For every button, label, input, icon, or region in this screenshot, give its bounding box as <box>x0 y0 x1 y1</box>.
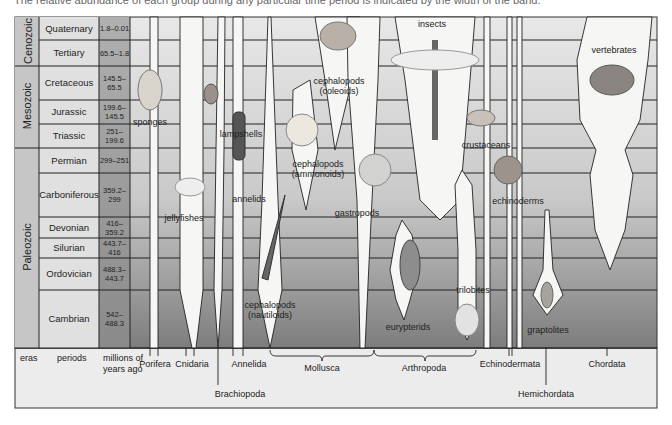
jellyfish-illustration <box>175 178 205 196</box>
axis-label-mya: millions of years ago <box>103 353 143 375</box>
group-label-cephalopods: cephalopods (coleoids) <box>313 76 364 96</box>
phylum-label-porifera: Porifera <box>139 359 171 369</box>
mya-label-carboniferous: 359.2– 299 <box>99 186 130 204</box>
group-label-insects: insects <box>418 19 446 29</box>
period-label-permian: Permian <box>39 155 99 166</box>
mya-label-ordovician: 488.3– 443.7 <box>99 265 130 283</box>
period-label-jurassic: Jurassic <box>39 106 99 117</box>
phylum-label-chordata: Chordata <box>588 359 625 369</box>
phylum-label-echinodermata: Echinodermata <box>480 359 541 369</box>
axis-label-eras: eras <box>20 353 38 364</box>
group-label-graptolites: graptolites <box>527 325 569 335</box>
lampshell-illustration <box>204 84 218 104</box>
sponge-illustration <box>138 70 162 110</box>
shrimp-illustration <box>467 110 495 126</box>
period-label-triassic: Triassic <box>39 130 99 141</box>
phylum-label-arthropoda: Arthropoda <box>402 363 447 373</box>
phylum-label-cnidaria: Cnidaria <box>175 359 209 369</box>
graptolite-illustration <box>541 282 553 308</box>
period-column <box>39 17 99 348</box>
group-label-echinoderms: echinoderms <box>492 196 544 206</box>
eurypterid-illustration <box>400 240 420 290</box>
group-label-sponges: sponges <box>133 117 167 127</box>
group-label-annelids: annelids <box>232 194 266 204</box>
phylum-label-hemichordata: Hemichordata <box>518 389 574 399</box>
era-label-mesozoic: Mesozoic <box>21 65 33 147</box>
turtle-illustration <box>590 65 634 95</box>
period-label-cambrian: Cambrian <box>39 313 99 324</box>
era-label-paleozoic: Paleozoic <box>21 147 33 347</box>
period-label-carboniferous: Carboniferous <box>39 189 99 200</box>
mya-label-permian: 299–251 <box>99 156 130 165</box>
mya-label-devonian: 416– 359.2 <box>99 219 130 237</box>
sponge-band <box>150 17 158 348</box>
group-label-crustaceans: crustaceans <box>462 140 511 150</box>
group-label-eurypterids: eurypterids <box>386 322 431 332</box>
axis-label-periods: periods <box>57 353 87 364</box>
period-label-tertiary: Tertiary <box>39 47 99 58</box>
mya-label-jurassic: 199.6– 145.5 <box>99 103 130 121</box>
phylum-label-annelida: Annelida <box>231 359 266 369</box>
group-label-trilobites: trilobites <box>456 285 490 295</box>
echinoderm-band-b <box>517 17 522 348</box>
mya-label-cretaceous: 145.5– 65.5 <box>99 74 130 92</box>
snail-illustration <box>359 154 391 186</box>
mya-label-quaternary: 1.8–0.01 <box>99 24 130 33</box>
era-label-cenozoic: Cenozoic <box>21 16 33 65</box>
mya-label-triassic: 251– 199.6 <box>99 127 130 145</box>
group-label-vertebrates: vertebrates <box>591 45 636 55</box>
period-label-devonian: Devonian <box>39 222 99 233</box>
ammonoid-illustration <box>286 114 318 146</box>
octopus-illustration <box>320 22 356 50</box>
phylum-label-brachiopoda: Brachiopoda <box>215 389 266 399</box>
crustacean-band <box>484 17 490 348</box>
group-label-gastropods: gastropods <box>335 208 380 218</box>
group-label-lampshells: lampshells <box>220 129 263 139</box>
trilobite-illustration <box>455 304 479 336</box>
mya-label-cambrian: 542– 488.3 <box>99 310 130 328</box>
dragonfly-wings <box>391 50 479 70</box>
period-label-silurian: Silurian <box>39 242 99 253</box>
annelid-band <box>233 17 243 348</box>
group-label-cephalopods: cephalopods (nautiloids) <box>244 300 295 320</box>
period-label-cretaceous: Cretaceous <box>39 77 99 88</box>
mya-column <box>99 17 130 348</box>
period-label-ordovician: Ordovician <box>39 268 99 279</box>
starfish-illustration <box>494 156 522 184</box>
phylum-label-mollusca: Mollusca <box>304 363 340 373</box>
period-label-quaternary: Quaternary <box>39 23 99 34</box>
mya-label-tertiary: 65.5–1.8 <box>99 49 130 58</box>
group-label-jellyfishes: jellyfishes <box>164 213 203 223</box>
mya-label-silurian: 443.7– 416 <box>99 239 130 257</box>
group-label-cephalopods: cephalopods (ammonoids) <box>292 159 345 179</box>
